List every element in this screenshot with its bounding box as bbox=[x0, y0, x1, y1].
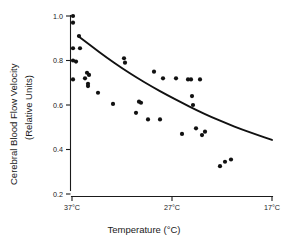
data-point bbox=[134, 111, 138, 115]
data-point bbox=[190, 94, 194, 98]
data-point bbox=[223, 160, 227, 164]
data-point bbox=[194, 126, 198, 130]
data-point bbox=[139, 101, 143, 105]
data-point bbox=[83, 76, 87, 80]
data-point bbox=[111, 102, 115, 106]
x-tick-label: 17°C bbox=[264, 203, 280, 212]
y-tick-label: 0.2 bbox=[53, 190, 63, 199]
data-point bbox=[146, 117, 150, 121]
data-point bbox=[189, 77, 193, 81]
data-point bbox=[77, 34, 81, 38]
data-point bbox=[203, 130, 207, 134]
data-point bbox=[71, 46, 75, 50]
y-tick-label: 0.8 bbox=[53, 56, 63, 65]
data-point bbox=[74, 60, 78, 64]
data-point bbox=[86, 84, 90, 88]
y-tick-label: 0.6 bbox=[53, 101, 63, 110]
data-point bbox=[152, 70, 156, 74]
x-tick-label: 37°C bbox=[64, 203, 80, 212]
data-point bbox=[71, 77, 75, 81]
y-tick-label: 1.0 bbox=[53, 12, 63, 21]
data-point bbox=[174, 76, 178, 80]
y-axis-title-line1: Cerebral Blood Flow Velocity bbox=[8, 63, 19, 185]
cbfv-temperature-scatter-chart: Cerebral Blood Flow Velocity (Relative U… bbox=[0, 0, 288, 241]
data-point bbox=[87, 73, 91, 77]
data-point bbox=[229, 157, 233, 161]
data-point bbox=[191, 103, 195, 107]
data-point bbox=[180, 132, 184, 136]
x-axis-title: Temperature (°C) bbox=[108, 224, 181, 235]
data-point bbox=[71, 21, 75, 25]
data-point bbox=[200, 133, 204, 137]
chart-background bbox=[0, 0, 288, 241]
data-point bbox=[123, 61, 127, 65]
data-point bbox=[96, 91, 100, 95]
data-point bbox=[161, 76, 165, 80]
data-point bbox=[71, 14, 75, 18]
data-point bbox=[78, 46, 82, 50]
data-point bbox=[122, 56, 126, 60]
y-axis-title-line2: (Relative Units) bbox=[23, 75, 34, 140]
data-point bbox=[218, 164, 222, 168]
x-tick-label: 27°C bbox=[164, 203, 180, 212]
data-point bbox=[158, 117, 162, 121]
data-point bbox=[198, 77, 202, 81]
y-tick-label: 0.4 bbox=[53, 145, 63, 154]
